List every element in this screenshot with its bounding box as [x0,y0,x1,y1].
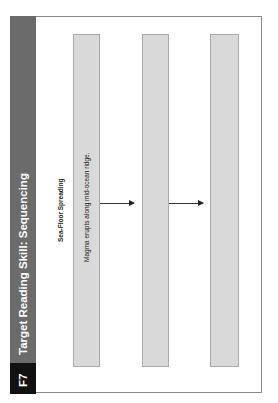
arrow-right-icon [100,203,134,204]
arrow-right-icon [169,203,203,204]
sequence-step-1-text: Magma erupts along mid-ocean ridge. [82,153,91,262]
sequence-box-3[interactable] [210,34,239,367]
sequence-box-2[interactable] [142,34,169,367]
worksheet-title: Target Reading Skill: Sequencing [15,173,31,355]
section-code: F7 [15,374,31,387]
organizer-title: Sea-Floor Spreading [56,178,65,242]
